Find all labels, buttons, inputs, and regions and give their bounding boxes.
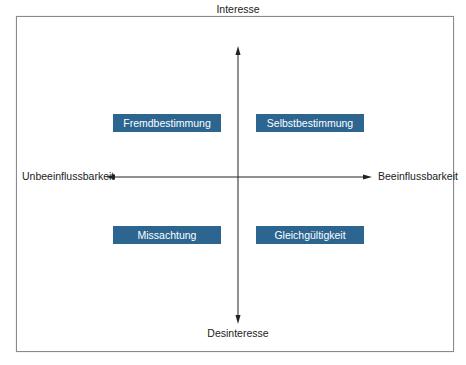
- arrow-down-icon: [236, 315, 241, 324]
- axes: [0, 0, 466, 365]
- quadrant-gleichgueltigkeit: Gleichgültigkeit: [256, 226, 364, 244]
- quadrant-selbstbestimmung: Selbstbestimmung: [256, 114, 364, 132]
- quadrant-missachtung: Missachtung: [113, 226, 221, 244]
- arrow-up-icon: [236, 46, 241, 55]
- axis-label-top: Interesse: [216, 3, 259, 15]
- arrow-right-icon: [363, 175, 372, 180]
- quadrant-fremdbestimmung: Fremdbestimmung: [113, 114, 221, 132]
- axis-label-bottom: Desinteresse: [207, 327, 268, 339]
- axis-label-left: Unbeeinflussbarkeit: [22, 170, 114, 182]
- axis-label-right: Beeinflussbarkeit: [378, 170, 458, 182]
